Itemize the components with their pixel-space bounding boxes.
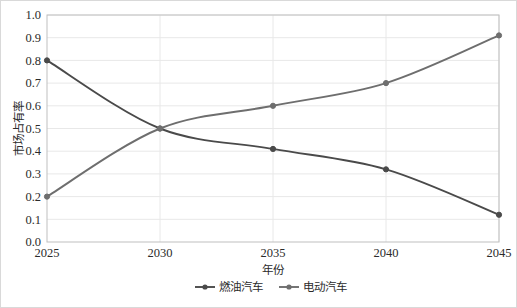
data-point-marker [44, 194, 49, 199]
y-axis-tick-label: 0.8 [25, 54, 41, 68]
y-axis-tick-label: 0.5 [25, 122, 41, 136]
data-point-marker [270, 146, 275, 151]
x-axis-tick-labels: 20252030203520402045 [35, 246, 512, 260]
x-axis-tick-label: 2045 [487, 246, 512, 260]
x-axis-tick-label: 2030 [148, 246, 173, 260]
y-axis-tick-label: 1.0 [25, 8, 41, 22]
data-point-marker [496, 212, 501, 217]
legend-item-2[interactable]: 电动汽车 [279, 280, 347, 293]
chart-legend: 燃油汽车电动汽车 [195, 280, 347, 293]
data-point-marker [496, 33, 501, 38]
data-point-marker [157, 126, 162, 131]
data-point-marker [270, 103, 275, 108]
y-axis-tick-label: 0.4 [25, 144, 41, 158]
x-axis-tick-label: 2035 [261, 246, 286, 260]
data-point-marker [44, 58, 49, 63]
data-point-marker [383, 81, 388, 86]
y-axis-tick-label: 0.2 [25, 190, 41, 204]
legend-label: 电动汽车 [303, 280, 347, 293]
y-axis-tick-label: 0.6 [25, 99, 41, 113]
y-axis-title: 市场占有率 [12, 101, 25, 156]
legend-marker-icon [202, 284, 207, 289]
chart-container: 0.00.10.20.30.40.50.60.70.80.91.0 202520… [0, 0, 517, 308]
y-axis-tick-label: 0.7 [25, 76, 41, 90]
y-axis-tick-label: 0.1 [25, 213, 41, 227]
data-point-marker [383, 167, 388, 172]
y-axis-tick-label: 0.3 [25, 167, 41, 181]
legend-item-1[interactable]: 燃油汽车 [195, 280, 263, 293]
line-chart: 0.00.10.20.30.40.50.60.70.80.91.0 202520… [1, 1, 517, 308]
x-axis-tick-label: 2025 [35, 246, 60, 260]
x-axis-title: 年份 [262, 263, 285, 276]
y-axis-tick-label: 0.9 [25, 31, 41, 45]
x-axis-tick-label: 2040 [374, 246, 399, 260]
legend-marker-icon [286, 284, 291, 289]
legend-label: 燃油汽车 [219, 280, 263, 293]
y-axis-tick-labels: 0.00.10.20.30.40.50.60.70.80.91.0 [25, 8, 41, 249]
